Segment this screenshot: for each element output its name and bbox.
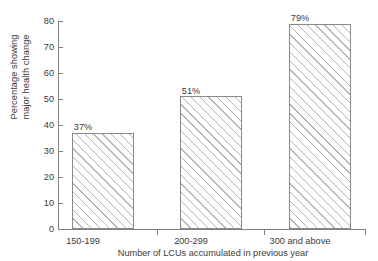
y-tick-label-20: 20 [32, 173, 54, 182]
bar-300-and-above[interactable] [289, 24, 351, 229]
y-tick-label-0: 0 [32, 225, 54, 234]
y-axis-tick-labels: 80 70 60 50 40 30 20 10 0 [30, 0, 54, 261]
bar-200-299[interactable] [180, 96, 242, 229]
x-tick-label-150-199: 150-199 [52, 237, 114, 246]
y-tick-label-70: 70 [32, 43, 54, 52]
y-tick-label-40: 40 [32, 121, 54, 130]
bar-label-300-and-above: 79% [269, 14, 331, 23]
y-tick-label-50: 50 [32, 95, 54, 104]
y-tick-label-10: 10 [32, 199, 54, 208]
x-tick-mark-3 [365, 229, 366, 235]
x-tick-label-300-and-above: 300 and above [257, 237, 343, 246]
x-tick-label-200-299: 200-299 [160, 237, 222, 246]
x-tick-mark-1 [157, 229, 158, 235]
bar-label-150-199: 37% [52, 123, 114, 132]
bar-150-199[interactable] [72, 133, 134, 229]
y-tick-label-80: 80 [32, 17, 54, 26]
bar-chart: Percentage showing major health change 8… [0, 0, 378, 261]
bar-label-200-299: 51% [160, 87, 222, 96]
x-axis-title: Number of LCUs accumulated in previous y… [0, 249, 378, 259]
x-tick-mark-2 [264, 229, 265, 235]
y-tick-label-60: 60 [32, 69, 54, 78]
y-tick-label-30: 30 [32, 147, 54, 156]
x-axis-line [58, 229, 366, 230]
y-axis-title-line-1: Percentage showing [9, 0, 21, 157]
